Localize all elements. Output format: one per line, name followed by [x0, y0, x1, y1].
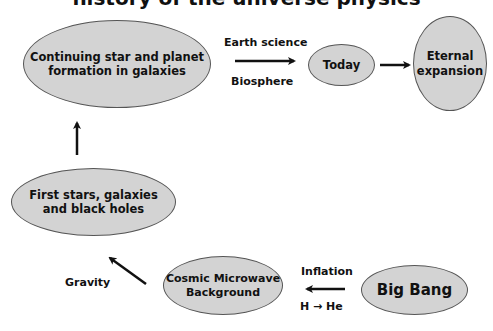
arrow-cmb-to-first: [110, 258, 146, 284]
node-cmb: Cosmic Microwave Background: [163, 256, 283, 315]
node-big-bang: Big Bang: [361, 265, 468, 315]
edge-label-biosphere: Biosphere: [231, 75, 293, 88]
node-continuing-star-planet: Continuing star and planet formation in …: [23, 20, 211, 108]
node-today: Today: [308, 44, 375, 86]
node-label-line: Background: [166, 286, 280, 300]
node-label-line: Cosmic Microwave: [166, 272, 280, 286]
edge-label-inflation: Inflation: [301, 265, 353, 278]
node-eternal-expansion: Eternal expansion: [413, 16, 487, 111]
node-label-line: Today: [323, 58, 360, 72]
edge-label-earth-science: Earth science: [224, 36, 307, 49]
node-label-line: First stars, galaxies: [29, 188, 158, 202]
node-first-stars: First stars, galaxies and black holes: [11, 168, 176, 236]
edge-label-h-to-he: H → He: [300, 300, 343, 313]
node-label-line: Eternal: [417, 49, 483, 63]
node-label-line: expansion: [417, 64, 483, 78]
node-label-line: and black holes: [29, 202, 158, 216]
node-label-line: Big Bang: [377, 281, 453, 300]
node-label-line: Continuing star and planet: [30, 50, 204, 64]
node-label-line: formation in galaxies: [30, 64, 204, 78]
edge-label-gravity: Gravity: [65, 276, 110, 289]
